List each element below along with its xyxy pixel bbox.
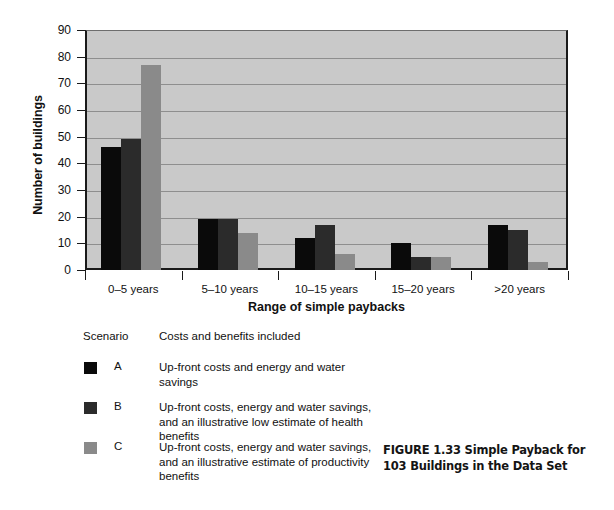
bar-b-group-2	[218, 219, 238, 270]
bar-series-layer	[85, 30, 568, 270]
y-tick-label-70: 70	[31, 77, 71, 89]
legend-key-b: B	[114, 400, 122, 412]
x-tick-5	[568, 271, 569, 280]
bar-c-group-2	[238, 233, 258, 270]
x-tick-label-5: >20 years	[471, 283, 568, 295]
bar-b-group-5	[508, 230, 528, 270]
y-tick-label-90: 90	[31, 24, 71, 36]
y-tick-label-60: 60	[31, 104, 71, 116]
x-tick-label-3: 10–15 years	[278, 283, 375, 295]
x-tick-2	[278, 271, 279, 280]
x-tick-label-2: 5–10 years	[182, 283, 279, 295]
legend-item-a: AUp-front costs and energy and water sav…	[83, 360, 383, 390]
figure-container: Number of buildings 0102030405060708090 …	[0, 0, 614, 510]
legend-item-b: BUp-front costs, energy and water saving…	[83, 400, 383, 430]
bar-c-group-4	[431, 257, 451, 270]
y-tick-label-20: 20	[31, 211, 71, 223]
legend-item-c: CUp-front costs, energy and water saving…	[83, 440, 383, 470]
legend-swatch-c	[84, 442, 97, 454]
y-tick-label-0: 0	[31, 264, 71, 276]
legend-swatch-a	[84, 362, 97, 374]
legend-description-a: Up-front costs and energy and water savi…	[159, 360, 384, 389]
bar-c-group-1	[141, 65, 161, 270]
legend-swatch-b	[84, 402, 97, 414]
legend-description-b: Up-front costs, energy and water savings…	[159, 400, 384, 444]
bar-c-group-3	[335, 254, 355, 270]
bar-a-group-2	[198, 219, 218, 270]
x-axis-title: Range of simple paybacks	[85, 300, 568, 314]
legend-key-a: A	[114, 360, 122, 372]
legend-key-c: C	[114, 440, 122, 452]
legend-rows: AUp-front costs and energy and water sav…	[83, 360, 383, 470]
x-tick-label-1: 0–5 years	[85, 283, 182, 295]
bar-a-group-4	[391, 243, 411, 270]
bar-a-group-3	[295, 238, 315, 270]
x-tick-label-4: 15–20 years	[375, 283, 472, 295]
bar-b-group-1	[121, 139, 141, 270]
bar-b-group-3	[315, 225, 335, 270]
x-tick-4	[471, 271, 472, 280]
bar-b-group-4	[411, 257, 431, 270]
y-tick-label-50: 50	[31, 131, 71, 143]
x-tick-3	[375, 271, 376, 280]
x-tick-0	[85, 271, 86, 280]
x-tick-1	[182, 271, 183, 280]
legend-header-scenario: Scenario	[83, 330, 128, 342]
chart-legend: Scenario Costs and benefits included AUp…	[83, 330, 383, 470]
y-tick-label-10: 10	[31, 237, 71, 249]
legend-header: Scenario Costs and benefits included	[83, 330, 383, 350]
legend-header-costs: Costs and benefits included	[159, 330, 300, 342]
bar-a-group-1	[101, 147, 121, 270]
y-tick-label-80: 80	[31, 51, 71, 63]
bar-a-group-5	[488, 225, 508, 270]
bar-c-group-5	[528, 262, 548, 270]
y-tick-label-30: 30	[31, 184, 71, 196]
y-tick-label-40: 40	[31, 157, 71, 169]
legend-description-c: Up-front costs, energy and water savings…	[159, 440, 384, 484]
figure-caption: FIGURE 1.33 Simple Payback for 103 Build…	[383, 442, 598, 474]
